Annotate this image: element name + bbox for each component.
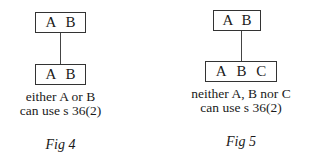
fig5-bottom-label-b: B bbox=[236, 63, 246, 80]
fig4-connector-line bbox=[60, 33, 61, 64]
fig5-bottom-label-c: C bbox=[256, 63, 266, 80]
fig4-top-label-b: B bbox=[66, 14, 76, 31]
fig4-top-label-a: A bbox=[45, 14, 56, 31]
fig5-bottom-label-a: A bbox=[216, 63, 227, 80]
fig5-bottom-box: A B C bbox=[205, 61, 277, 82]
fig4-caption-line2: can use s 36(2) bbox=[0, 104, 121, 118]
fig4-bottom-label-b: B bbox=[66, 66, 76, 83]
fig4-bottom-label-a: A bbox=[45, 66, 56, 83]
fig5-top-box: A B bbox=[213, 10, 261, 31]
fig5-caption-line1: neither A, B nor C bbox=[180, 87, 302, 101]
fig5-connector-line bbox=[241, 31, 242, 61]
fig5-caption-line2: can use s 36(2) bbox=[180, 101, 302, 115]
fig4-top-box: A B bbox=[35, 12, 86, 33]
fig4-label: Fig 4 bbox=[0, 137, 121, 153]
fig4-bottom-box: A B bbox=[35, 64, 86, 85]
fig4-caption-line1: either A or B bbox=[0, 90, 121, 104]
fig5-label: Fig 5 bbox=[180, 134, 302, 150]
fig5-top-label-b: B bbox=[242, 12, 252, 29]
fig5-top-label-a: A bbox=[222, 12, 233, 29]
